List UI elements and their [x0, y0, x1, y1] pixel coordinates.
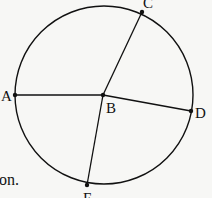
segment-BE [87, 95, 103, 185]
circle-diagram: A B C D E [0, 0, 212, 198]
segment-BC [103, 12, 142, 95]
text-fragment: on. [0, 171, 19, 189]
label-C: C [143, 0, 153, 11]
point-A [13, 93, 17, 97]
point-B [101, 93, 105, 97]
point-D [189, 109, 193, 113]
label-B: B [106, 100, 116, 116]
label-A: A [1, 88, 12, 104]
label-D: D [195, 105, 206, 121]
point-E [85, 183, 89, 187]
segment-BD [103, 95, 191, 111]
label-E: E [83, 190, 92, 198]
